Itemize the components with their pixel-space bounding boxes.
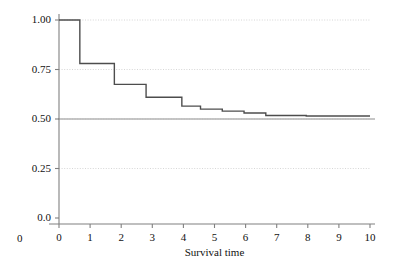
- x-axis-title: Survival time: [145, 246, 285, 258]
- origin-corner-label: 0: [17, 232, 23, 244]
- survival-step-line: [59, 20, 370, 116]
- y-tick-label-0.5: 0.50: [32, 113, 51, 124]
- y-tick-label-0.75: 0.75: [32, 64, 51, 75]
- y-tick-marks-group: [55, 20, 59, 218]
- x-tick-marks-group: [59, 224, 370, 228]
- x-tick-label-10: 10: [350, 232, 390, 243]
- gridlines-group: [59, 20, 370, 169]
- survival-step-line-group: [59, 20, 370, 116]
- y-tick-label-0.25: 0.25: [32, 163, 51, 174]
- chart-canvas: [0, 0, 396, 264]
- y-tick-label-0: 0.0: [37, 212, 51, 223]
- y-tick-label-1: 1.00: [32, 14, 51, 25]
- survival-curve-figure: 0.00.250.500.751.00 012345678910 0 Survi…: [0, 0, 396, 264]
